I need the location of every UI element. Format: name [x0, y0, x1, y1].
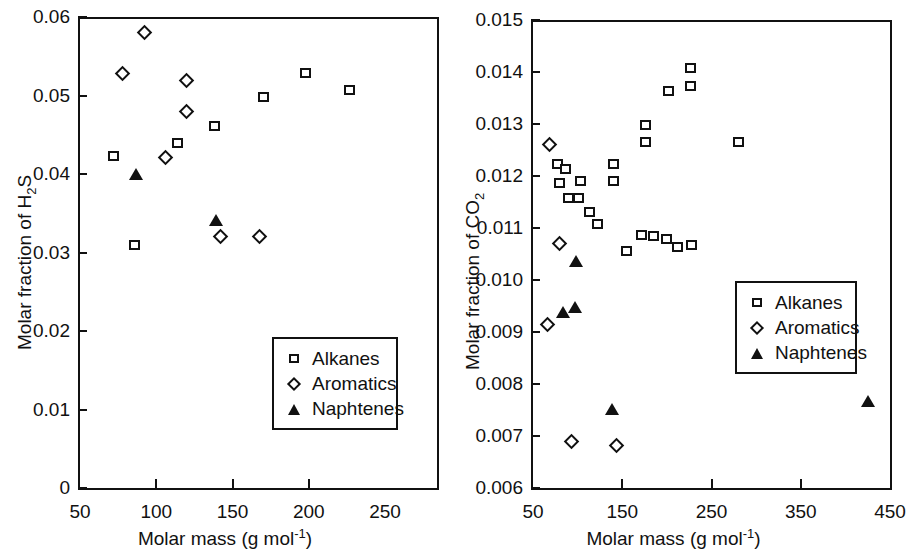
legend-item-h2s-alkanes: Alkanes	[283, 346, 384, 371]
legend-item-h2s-naphtenes: Naphtenes	[283, 396, 384, 421]
data-point-h2s-naphtenes-0	[129, 168, 143, 180]
legend-item-co2-naphtenes: Naphtenes	[746, 340, 843, 365]
data-point-co2-naphtenes-2	[569, 255, 583, 267]
legend-label-co2-2: Naphtenes	[768, 343, 867, 362]
open-diamond-icon	[287, 376, 301, 390]
legend-swatch-open-diamond-icon	[746, 317, 768, 339]
filled-triangle-icon	[288, 404, 300, 415]
series-co2-naphtenes	[450, 0, 897, 553]
legend-swatch-open-diamond-icon	[283, 373, 305, 395]
open-diamond-icon	[750, 320, 764, 334]
legend-swatch-filled-triangle-icon	[283, 398, 305, 420]
open-square-icon	[289, 354, 299, 363]
legend-label-co2-0: Alkanes	[768, 293, 843, 312]
data-point-h2s-naphtenes-1	[209, 214, 223, 226]
legend-item-co2-alkanes: Alkanes	[746, 290, 843, 315]
data-point-co2-naphtenes-4	[861, 395, 875, 407]
legend-label-h2s-0: Alkanes	[305, 349, 380, 368]
open-square-icon	[752, 298, 762, 307]
legend-co2: AlkanesAromaticsNaphtenes	[735, 281, 857, 374]
legend-item-h2s-aromatics: Aromatics	[283, 371, 384, 396]
filled-triangle-icon	[751, 348, 763, 359]
series-h2s-naphtenes	[0, 0, 450, 553]
data-point-co2-naphtenes-3	[605, 403, 619, 415]
legend-label-h2s-1: Aromatics	[305, 374, 396, 393]
legend-swatch-open-square-icon	[746, 292, 768, 314]
legend-label-h2s-2: Naphtenes	[305, 399, 404, 418]
legend-swatch-open-square-icon	[283, 348, 305, 370]
data-point-co2-naphtenes-1	[568, 301, 582, 313]
chart-panel-h2s: 00.010.020.030.040.050.0650100150200250M…	[0, 0, 450, 553]
legend-item-co2-aromatics: Aromatics	[746, 315, 843, 340]
legend-swatch-filled-triangle-icon	[746, 342, 768, 364]
chart-panel-co2: 0.0060.0070.0080.0090.0100.0110.0120.013…	[450, 0, 897, 553]
legend-h2s: AlkanesAromaticsNaphtenes	[272, 337, 398, 430]
legend-label-co2-1: Aromatics	[768, 318, 859, 337]
